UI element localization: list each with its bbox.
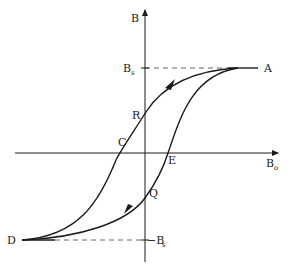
point-d-label: D xyxy=(7,234,16,247)
point-e-label: E xyxy=(168,154,176,167)
hysteresis-diagram: B B o B s −B s A R C E Q D xyxy=(0,0,298,274)
point-c-label: C xyxy=(118,136,126,149)
y-axis-label: B xyxy=(131,12,139,25)
ascending-branch-curve xyxy=(22,68,238,240)
descending-branch-curve xyxy=(22,68,238,240)
point-q-label: Q xyxy=(149,187,158,200)
x-axis-label-subscript: o xyxy=(274,164,278,172)
bs-label-subscript: s xyxy=(131,69,135,77)
x-axis-label: B xyxy=(266,157,274,170)
bs-label: B xyxy=(123,62,131,75)
point-a-label: A xyxy=(263,62,273,75)
point-r-label: R xyxy=(132,109,141,122)
ascending-direction-arrow-icon xyxy=(124,204,133,214)
neg-bs-label-subscript: s xyxy=(162,241,166,249)
